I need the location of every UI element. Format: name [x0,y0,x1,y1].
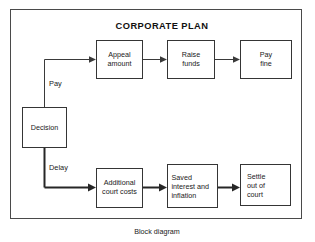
arrowhead-saved-to-settle [232,184,240,192]
block-diagram-figure: CORPORATE PLAN Decision Appeal amount R [0,0,315,242]
figure-caption: Block diagram [134,227,180,236]
branch-label-delay: Delay [49,163,68,172]
branch-label-pay: Pay [49,79,62,88]
node-appeal-amount-line2: amount [108,59,132,68]
node-decision-label: Decision [31,123,59,132]
arrowhead-raise-to-payfine [233,56,240,62]
diagram-canvas: CORPORATE PLAN Decision Appeal amount R [0,0,315,242]
arrowhead-delay-to-additional [88,184,96,192]
node-raise-funds-line2: funds [182,59,200,68]
node-settle-out-of-court-line3: court [247,190,263,199]
node-pay-fine-line2: fine [260,59,272,68]
node-additional-court-costs-line2: court costs [102,187,137,196]
page-title: CORPORATE PLAN [116,21,209,31]
node-saved-interest-inflation-line3: inflation [172,191,197,200]
arrowhead-appeal-to-raise [160,56,167,62]
arrowhead-additional-to-saved [159,184,167,192]
arrowhead-pay-to-appeal [89,56,96,62]
